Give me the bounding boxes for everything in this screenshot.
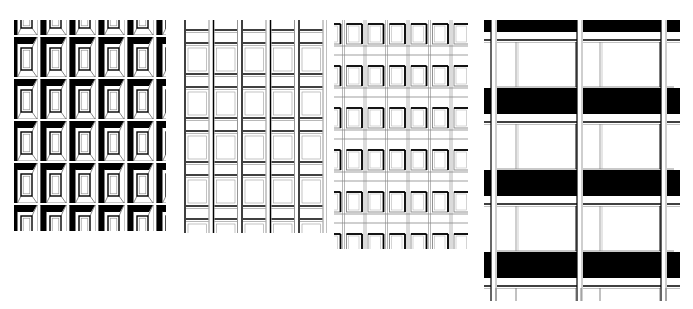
facade-2-line-grid [181,20,327,233]
facade-4-drawing [484,20,682,301]
facade-1-drawing [14,20,166,231]
facade-1-poche-windows [14,20,166,231]
facade-3-drawing [334,20,468,249]
facade-4-spandrel-bands [484,20,682,301]
facade-2-drawing [181,20,327,233]
facade-3-framed-windows [334,20,468,249]
